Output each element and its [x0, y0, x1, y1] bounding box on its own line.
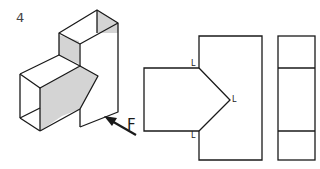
- corner-label-top: L: [191, 59, 195, 68]
- front-view: [144, 36, 262, 160]
- isometric-view: [20, 10, 118, 131]
- corner-label-bottom: L: [191, 131, 195, 140]
- corner-label-apex: L: [232, 95, 236, 104]
- technical-drawing: [0, 0, 320, 169]
- side-view: [278, 36, 315, 160]
- arrow-label-f: F: [127, 116, 136, 134]
